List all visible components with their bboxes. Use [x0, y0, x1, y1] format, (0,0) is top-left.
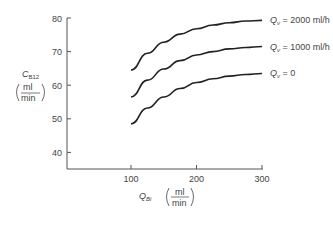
svg-text:min: min — [172, 198, 187, 208]
y-tick-label: 80 — [52, 14, 62, 24]
y-tick-label: 60 — [52, 81, 62, 91]
series-curve — [131, 20, 262, 70]
svg-text:QBi: QBi — [139, 191, 152, 202]
y-tick-label: 50 — [52, 114, 62, 124]
x-tick-label: 300 — [254, 174, 269, 184]
svg-text:ml: ml — [23, 82, 33, 92]
y-ticks: 4050607080 — [52, 14, 71, 158]
svg-text:ml: ml — [175, 187, 185, 197]
inline-legend: Qv = 2000 ml/hQv = 1000 ml/hQv = 0 — [270, 15, 330, 79]
chart: 4050607080 100200300 Qv = 2000 ml/hQv = … — [0, 0, 333, 225]
y-tick-label: 40 — [52, 148, 62, 158]
x-tick-label: 100 — [123, 174, 138, 184]
series-curve — [131, 73, 262, 123]
series-label: Qv = 1000 ml/h — [270, 42, 330, 53]
x-axis-title: QBi ml min — [139, 187, 194, 208]
x-ticks: 100200300 — [123, 165, 269, 184]
y-tick-label: 70 — [52, 47, 62, 57]
svg-text:CB12: CB12 — [22, 69, 40, 80]
curves — [131, 20, 262, 123]
series-label: Qv = 0 — [270, 68, 295, 79]
x-tick-label: 200 — [189, 174, 204, 184]
svg-text:min: min — [21, 93, 36, 103]
series-curve — [131, 47, 262, 97]
series-label: Qv = 2000 ml/h — [270, 15, 330, 26]
axes — [67, 18, 263, 169]
y-axis-title: CB12 ml min — [17, 69, 45, 103]
